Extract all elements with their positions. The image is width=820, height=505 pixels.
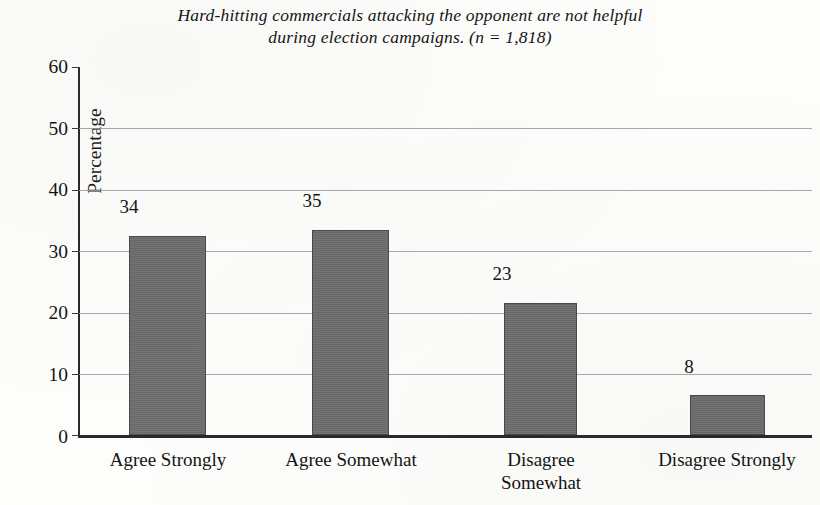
y-tick-30 [72,251,79,252]
bar-value-agree-somewhat: 35 [267,190,357,212]
bar-agree-somewhat[interactable] [312,230,389,435]
x-category-label-agree-somewhat: Agree Somewhat [251,448,451,471]
x-category-line: Agree Strongly [68,448,268,471]
y-tick-40 [72,190,79,191]
x-category-line: Agree Somewhat [251,448,451,471]
y-tick-label-20: 20 [22,302,68,324]
y-tick-20 [72,313,79,314]
x-category-line-2: Somewhat [441,471,641,494]
bar-disagree-strongly[interactable] [690,395,765,435]
y-tick-label-40: 40 [22,179,68,201]
y-tick-50 [72,128,79,129]
x-category-label-disagree-strongly: Disagree Strongly [627,448,820,471]
x-category-label-agree-strongly: Agree Strongly [68,448,268,471]
y-tick-label-50: 50 [22,118,68,140]
x-category-line-1: Disagree [441,448,641,471]
y-tick-label-10: 10 [22,364,68,386]
x-category-label-disagree-somewhat: Disagree Somewhat [441,448,641,494]
chart-title-line-2: during election campaigns. (n = 1,818) [0,26,820,48]
bar-value-disagree-strongly: 8 [644,356,734,378]
bar-value-disagree-somewhat: 23 [457,263,547,285]
x-axis-line [78,435,812,438]
y-axis-line [78,67,80,437]
y-tick-label-30: 30 [22,241,68,263]
y-tick-10 [72,374,79,375]
bar-disagree-somewhat[interactable] [504,303,577,435]
y-tick-label-60: 60 [22,56,68,78]
gridline-40 [78,190,812,191]
chart-title: Hard-hitting commercials attacking the o… [0,4,820,48]
chart-title-line-1: Hard-hitting commercials attacking the o… [0,4,820,26]
bar-value-agree-strongly: 34 [84,196,174,218]
y-tick-0 [72,435,79,436]
y-tick-label-0: 0 [22,426,68,448]
gridline-50 [78,128,812,129]
plot-area [78,67,812,437]
bar-agree-strongly[interactable] [129,236,206,435]
x-category-line: Disagree Strongly [627,448,820,471]
y-tick-60 [72,67,79,68]
